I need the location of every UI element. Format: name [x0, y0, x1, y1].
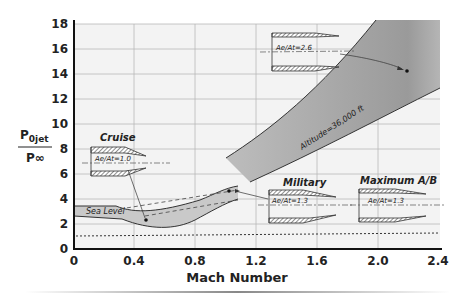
cruise-area-ratio: Ae/At=1.0 — [94, 155, 132, 163]
svg-text:2: 2 — [60, 217, 68, 231]
svg-text:0.8: 0.8 — [184, 254, 205, 268]
svg-text:1.2: 1.2 — [245, 254, 266, 268]
svg-text:0.4: 0.4 — [123, 254, 144, 268]
max-ab-area-ratio: Ae/At=1.3 — [367, 197, 404, 205]
svg-text:18: 18 — [51, 17, 68, 31]
max-ab-label: Maximum A/B — [360, 175, 437, 186]
svg-text:14: 14 — [51, 67, 68, 81]
military-area-ratio: Ae/At=1.3 — [271, 197, 308, 205]
sea-level-label: Sea Level — [86, 207, 125, 216]
svg-text:8: 8 — [60, 142, 68, 156]
svg-text:12: 12 — [51, 92, 68, 106]
svg-text:2.0: 2.0 — [367, 254, 388, 268]
svg-text:2.4: 2.4 — [427, 254, 448, 268]
x-axis-label: Mach Number — [186, 270, 288, 285]
svg-text:P∞: P∞ — [26, 151, 45, 165]
military-label: Military — [283, 177, 327, 188]
svg-text:4: 4 — [60, 192, 68, 206]
svg-text:10: 10 — [51, 117, 68, 131]
svg-text:6: 6 — [60, 167, 68, 181]
nozzle-pressure-ratio-chart: Altitude=36,000 ft Sea Level Cruise Ae/A… — [0, 0, 465, 301]
x-tick-labels: 0 0.4 0.8 1.2 1.6 2.0 2.4 — [70, 254, 449, 268]
svg-text:0: 0 — [60, 242, 68, 256]
svg-text:0: 0 — [70, 254, 78, 268]
altitude-area-ratio: Ae/At=2.6 — [275, 44, 313, 52]
svg-text:P0jet: P0jet — [20, 128, 49, 144]
y-tick-labels: 0 2 4 6 8 10 12 14 16 18 — [51, 17, 68, 256]
svg-text:16: 16 — [51, 42, 68, 56]
svg-text:1.6: 1.6 — [306, 254, 327, 268]
y-axis-label: P0jet P∞ — [18, 128, 52, 165]
bottom-shadow-rule — [25, 291, 450, 293]
cruise-label: Cruise — [100, 132, 136, 143]
